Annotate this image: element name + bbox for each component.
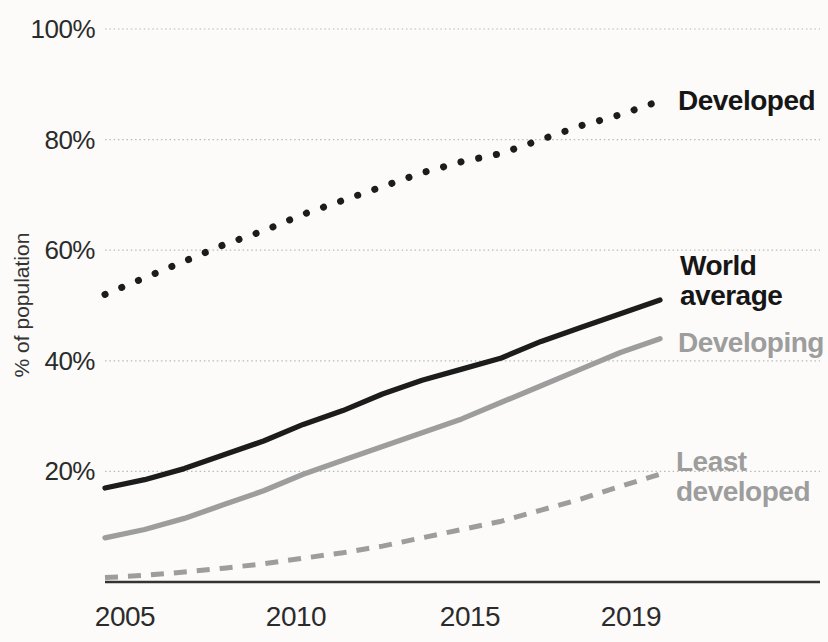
y-tick-20: 20% bbox=[23, 457, 95, 485]
series-label-line: Least bbox=[676, 447, 810, 477]
series-label-line: average bbox=[680, 281, 782, 311]
series-label-world-average: Worldaverage bbox=[680, 251, 782, 311]
series-label-least-developed: Leastdeveloped bbox=[676, 447, 810, 507]
y-tick-100: 100% bbox=[23, 15, 95, 43]
series-label-line: developed bbox=[676, 477, 810, 507]
y-tick-60: 60% bbox=[23, 236, 95, 264]
series-label-line: Developed bbox=[678, 86, 815, 116]
x-tick-2010: 2010 bbox=[226, 602, 366, 632]
series-line-developed bbox=[105, 101, 660, 295]
series-line-least-developed bbox=[105, 474, 660, 577]
series-line-world-average bbox=[105, 300, 660, 488]
series-label-line: Developing bbox=[678, 328, 824, 358]
series-line-developing bbox=[105, 339, 660, 538]
series-label-line: World bbox=[680, 251, 782, 281]
x-tick-2015: 2015 bbox=[400, 602, 540, 632]
series-label-developing: Developing bbox=[678, 328, 824, 358]
y-tick-40: 40% bbox=[23, 347, 95, 375]
x-tick-2005: 2005 bbox=[55, 602, 195, 632]
y-tick-80: 80% bbox=[23, 126, 95, 154]
internet-use-chart: % of population 20%40%60%80%100% 2005201… bbox=[0, 0, 828, 642]
x-tick-2019: 2019 bbox=[561, 602, 701, 632]
series-label-developed: Developed bbox=[678, 86, 815, 116]
